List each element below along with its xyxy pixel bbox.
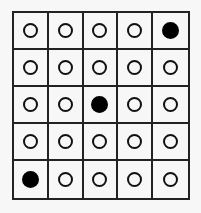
grid-cell-r2-c5 <box>153 50 188 87</box>
filled-circle-icon <box>162 22 179 39</box>
grid-cell-r2-c1 <box>14 50 49 87</box>
grid-cell-r3-c3 <box>84 87 119 124</box>
grid-cell-r4-c5 <box>153 124 188 161</box>
empty-circle-icon <box>92 172 107 187</box>
empty-circle-icon <box>127 134 142 149</box>
empty-circle-icon <box>92 23 107 38</box>
empty-circle-icon <box>163 134 178 149</box>
grid-cell-r5-c5 <box>153 161 188 198</box>
empty-circle-icon <box>127 60 142 75</box>
empty-circle-icon <box>58 97 73 112</box>
dot-grid <box>12 11 190 200</box>
grid-cell-r3-c2 <box>49 87 84 124</box>
empty-circle-icon <box>58 172 73 187</box>
grid-cell-r3-c4 <box>118 87 153 124</box>
empty-circle-icon <box>58 23 73 38</box>
empty-circle-icon <box>163 172 178 187</box>
empty-circle-icon <box>23 97 38 112</box>
empty-circle-icon <box>127 97 142 112</box>
empty-circle-icon <box>23 60 38 75</box>
empty-circle-icon <box>127 172 142 187</box>
grid-cell-r3-c1 <box>14 87 49 124</box>
grid-cell-r2-c4 <box>118 50 153 87</box>
grid-cell-r3-c5 <box>153 87 188 124</box>
grid-cell-r4-c4 <box>118 124 153 161</box>
grid-cell-r1-c4 <box>118 13 153 50</box>
grid-cell-r1-c1 <box>14 13 49 50</box>
grid-cell-r4-c2 <box>49 124 84 161</box>
grid-cell-r2-c3 <box>84 50 119 87</box>
grid-cell-r1-c3 <box>84 13 119 50</box>
empty-circle-icon <box>58 134 73 149</box>
empty-circle-icon <box>163 97 178 112</box>
grid-cell-r5-c2 <box>49 161 84 198</box>
grid-cell-r2-c2 <box>49 50 84 87</box>
grid-cell-r5-c4 <box>118 161 153 198</box>
grid-cell-r1-c2 <box>49 13 84 50</box>
empty-circle-icon <box>23 134 38 149</box>
filled-circle-icon <box>91 96 108 113</box>
empty-circle-icon <box>58 60 73 75</box>
grid-cell-r5-c1 <box>14 161 49 198</box>
grid-cell-r1-c5 <box>153 13 188 50</box>
empty-circle-icon <box>127 23 142 38</box>
grid-cell-r4-c3 <box>84 124 119 161</box>
empty-circle-icon <box>92 60 107 75</box>
empty-circle-icon <box>92 134 107 149</box>
filled-circle-icon <box>22 171 39 188</box>
empty-circle-icon <box>23 23 38 38</box>
empty-circle-icon <box>163 60 178 75</box>
grid-cell-r5-c3 <box>84 161 119 198</box>
grid-cell-r4-c1 <box>14 124 49 161</box>
